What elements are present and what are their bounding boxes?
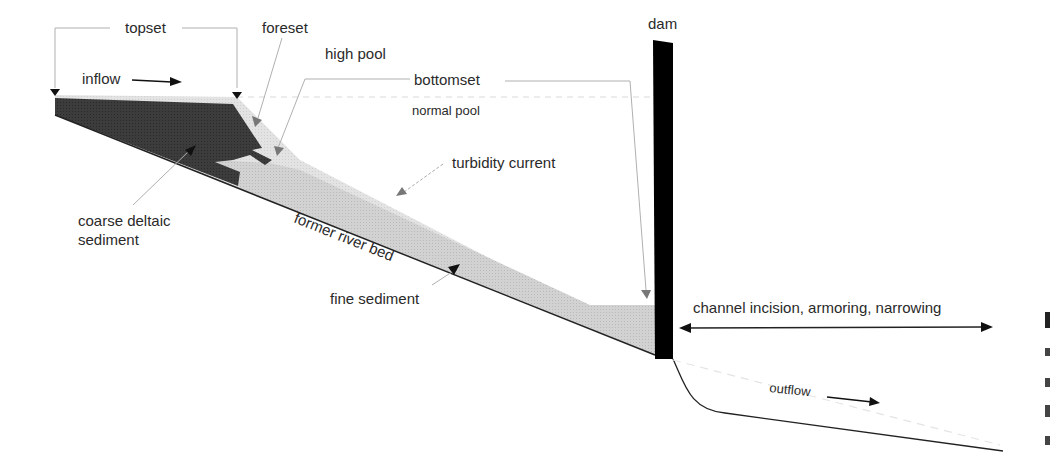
cropped-text-fragment (1045, 378, 1050, 387)
label-foreset: foreset (262, 19, 309, 36)
cropped-text-fragment (1045, 405, 1050, 417)
inflow-arrow-icon (170, 77, 182, 86)
label-normal-pool: normal pool (412, 103, 480, 118)
label-dam: dam (648, 15, 677, 32)
inflow-arrow-shaft (132, 80, 172, 82)
cropped-text-fragment (1045, 312, 1050, 328)
dam (653, 40, 673, 359)
label-outflow: outflow (769, 380, 812, 399)
outflow-arrow-icon (869, 397, 880, 406)
channel-effects-arrow-right-icon (981, 322, 993, 332)
label-topset: topset (125, 19, 167, 36)
reservoir-sedimentation-diagram: topset foreset high pool bottomset norma… (0, 0, 1050, 475)
label-channel-effects: channel incision, armoring, narrowing (693, 299, 941, 316)
label-inflow: inflow (82, 70, 121, 87)
topset-bracket-right (182, 28, 237, 88)
channel-effects-arrow-shaft (684, 327, 983, 328)
label-coarse-sediment-line2: sediment (78, 231, 140, 248)
foreset-leader (258, 38, 282, 118)
bottomset-leader-right (505, 81, 646, 290)
cropped-text-fragment (1045, 348, 1050, 356)
label-coarse-sediment-line1: coarse deltaic (78, 212, 171, 229)
bottomset-pointer-right (641, 290, 651, 299)
label-high-pool: high pool (325, 45, 386, 62)
label-bottomset: bottomset (414, 71, 481, 88)
former-downstream-bed (673, 360, 1000, 445)
bottomset-leader-left (278, 79, 410, 148)
label-turbidity-current: turbidity current (452, 154, 556, 171)
turbidity-leader (404, 164, 443, 192)
outflow-arrow-shaft (827, 397, 872, 402)
channel-effects-arrow-left-icon (679, 323, 691, 333)
downstream-channel (673, 359, 1003, 451)
topset-pointer-left (50, 89, 60, 96)
fine-sediment-layer (215, 160, 655, 355)
fine-sediment-leader (432, 272, 452, 285)
label-fine-sediment: fine sediment (330, 290, 420, 307)
cropped-text-fragment (1045, 436, 1050, 445)
